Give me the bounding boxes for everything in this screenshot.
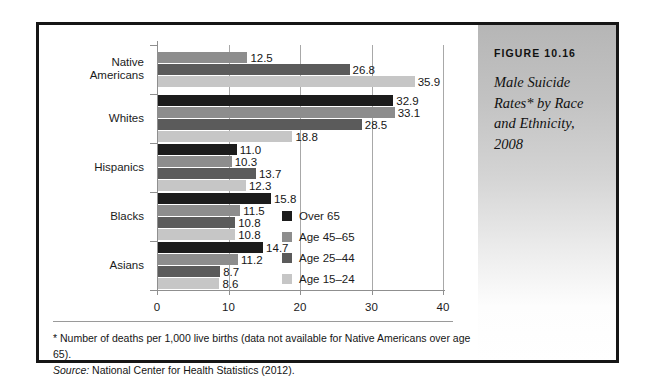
bar-value-label: 35.9	[418, 76, 440, 88]
bar-value-label: 11.2	[241, 254, 263, 266]
bar: 32.9	[158, 95, 393, 106]
bar: 10.3	[158, 156, 232, 167]
bar: 11.5	[158, 205, 240, 216]
bar: 15.8	[158, 193, 271, 204]
bar-value-label: 15.8	[274, 193, 296, 205]
legend-item: Age 25–44	[282, 249, 355, 267]
category-label: Whites	[109, 112, 144, 126]
footnote-source-text: National Center for Health Statistics (2…	[89, 364, 294, 376]
bar-value-label: 8.7	[223, 266, 239, 278]
bar-value-label: 10.3	[235, 156, 257, 168]
legend-item: Age 15–24	[282, 270, 355, 288]
chart-legend: Over 65Age 45–65Age 25–44Age 15–24	[282, 207, 355, 291]
bar-value-label: 12.5	[250, 52, 272, 64]
bar: 14.7	[158, 242, 263, 253]
bar: 28.5	[158, 119, 362, 130]
footnote-source: Source: National Center for Health Stati…	[53, 363, 473, 379]
bar: 8.6	[158, 278, 219, 289]
x-axis-tick	[229, 290, 230, 295]
chart-region: 010203040 NativeAmericansWhitesHispanics…	[39, 25, 484, 360]
x-axis-tick-label: 20	[294, 301, 307, 313]
bar-value-label: 13.7	[259, 168, 281, 180]
legend-item: Age 45–65	[282, 228, 355, 246]
figure-caption: Male Suicide Rates* by Race and Ethnicit…	[494, 72, 602, 154]
bar-value-label: 10.8	[238, 217, 260, 229]
footnote: * Number of deaths per 1,000 live births…	[53, 331, 473, 378]
x-axis-tick	[157, 290, 158, 295]
footnote-source-label: Source:	[53, 364, 89, 376]
figure-number: FIGURE 10.16	[494, 47, 602, 59]
bar: 8.7	[158, 266, 220, 277]
bar-value-label: 10.8	[238, 229, 260, 241]
bar: 35.9	[158, 76, 415, 87]
legend-swatch	[282, 253, 292, 263]
category-label: Blacks	[110, 210, 144, 224]
legend-label: Age 45–65	[299, 231, 355, 243]
legend-swatch	[282, 232, 292, 242]
y-axis-tick	[150, 45, 157, 46]
legend-label: Over 65	[299, 210, 340, 222]
y-axis-tick	[150, 241, 157, 242]
bar-value-label: 11.0	[240, 144, 262, 156]
bar: 11.0	[158, 144, 237, 155]
bar-value-label: 12.3	[249, 180, 271, 192]
legend-swatch	[282, 211, 292, 221]
y-axis-tick	[150, 143, 157, 144]
legend-label: Age 15–24	[299, 273, 355, 285]
bar-value-label: 8.6	[222, 278, 238, 290]
category-label: Asians	[109, 259, 144, 273]
bar: 10.8	[158, 217, 235, 228]
footnote-divider	[53, 321, 453, 322]
bar: 13.7	[158, 168, 256, 179]
bar: 12.5	[158, 52, 247, 63]
gridline	[443, 45, 444, 290]
bar-value-label: 26.8	[353, 64, 375, 76]
y-axis-tick	[150, 290, 157, 291]
x-axis-tick-label: 10	[222, 301, 235, 313]
bar-value-label: 28.5	[365, 119, 387, 131]
figure-title-panel: FIGURE 10.16 Male Suicide Rates* by Race…	[478, 25, 616, 360]
x-axis-tick-label: 40	[437, 301, 450, 313]
bar: 33.1	[158, 107, 395, 118]
x-axis-tick-label: 30	[365, 301, 378, 313]
bar-value-label: 32.9	[396, 95, 418, 107]
figure-container: 010203040 NativeAmericansWhitesHispanics…	[36, 22, 619, 363]
bar: 11.2	[158, 254, 238, 265]
bar: 12.3	[158, 180, 246, 191]
x-axis-tick-label: 0	[154, 301, 160, 313]
bar: 18.8	[158, 131, 292, 142]
y-axis-tick	[150, 192, 157, 193]
legend-swatch	[282, 274, 292, 284]
category-label: NativeAmericans	[90, 56, 144, 83]
bar-value-label: 33.1	[398, 107, 420, 119]
x-axis-tick	[372, 290, 373, 295]
bar: 26.8	[158, 64, 350, 75]
x-axis-tick	[443, 290, 444, 295]
bar-value-label: 11.5	[243, 205, 265, 217]
bar-value-label: 18.8	[295, 131, 317, 143]
bar: 10.8	[158, 229, 235, 240]
y-axis-tick	[150, 94, 157, 95]
footnote-asterisk-note: * Number of deaths per 1,000 live births…	[53, 331, 473, 363]
legend-label: Age 25–44	[299, 252, 355, 264]
category-label: Hispanics	[94, 161, 144, 175]
legend-item: Over 65	[282, 207, 355, 225]
